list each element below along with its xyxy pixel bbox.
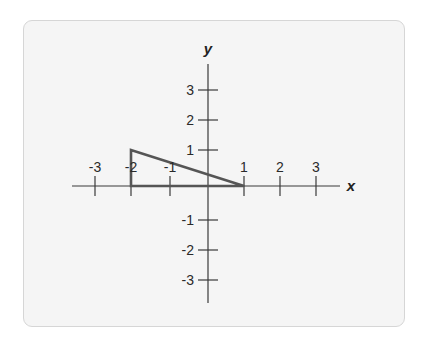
x-tick-label: 3 [312,159,320,175]
coordinate-plane: -3 -2 -1 1 2 3 3 2 1 -1 -2 -3 x y [0,0,427,350]
x-tick-label: -3 [89,159,102,175]
x-tick-label: 2 [276,159,284,175]
x-axis-label: x [346,177,356,194]
x-tick-label: 1 [240,159,248,175]
y-axis-label: y [203,40,213,57]
x-tick-label: -1 [164,159,177,175]
y-tick-label: -1 [182,212,195,228]
y-tick-label: 1 [186,142,194,158]
y-tick-label: 2 [186,112,194,128]
y-tick-label: -3 [182,272,195,288]
y-tick-label: 3 [186,82,194,98]
y-tick-label: -2 [182,242,195,258]
x-tick-label: -2 [125,159,138,175]
